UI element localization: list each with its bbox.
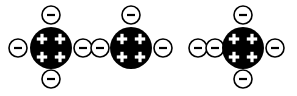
atom-3-electron-left-inner[interactable] bbox=[206, 39, 224, 57]
minus-sign-icon bbox=[271, 47, 279, 49]
plus-bar-vertical bbox=[250, 34, 253, 44]
minus-sign-icon bbox=[47, 78, 55, 80]
plus-bar-vertical bbox=[58, 52, 61, 62]
plus-bar-vertical bbox=[232, 52, 235, 62]
minus-sign-icon bbox=[239, 14, 247, 16]
charge-diagram-svg bbox=[0, 0, 297, 96]
atom-1-electron-right[interactable] bbox=[74, 39, 92, 57]
charge-diagram-canvas bbox=[0, 0, 297, 96]
atom-2-nucleus[interactable] bbox=[110, 27, 152, 69]
atom-3-nucleus[interactable] bbox=[222, 27, 264, 69]
plus-bar-vertical bbox=[40, 52, 43, 62]
plus-bar-vertical bbox=[232, 34, 235, 44]
plus-bar-vertical bbox=[138, 52, 141, 62]
plus-bar-vertical bbox=[58, 34, 61, 44]
minus-sign-icon bbox=[14, 47, 22, 49]
atom-3-electron-right[interactable] bbox=[266, 39, 284, 57]
plus-bar-vertical bbox=[250, 52, 253, 62]
minus-sign-icon bbox=[47, 14, 55, 16]
plus-bar-vertical bbox=[120, 34, 123, 44]
nucleus-circle bbox=[30, 27, 72, 69]
atom-3-electron-top[interactable] bbox=[234, 6, 252, 24]
plus-bar-vertical bbox=[40, 34, 43, 44]
minus-sign-icon bbox=[194, 47, 202, 49]
atom-3-electron-left-outer[interactable] bbox=[189, 39, 207, 57]
plus-bar-vertical bbox=[138, 34, 141, 44]
minus-sign-icon bbox=[127, 14, 135, 16]
atom-1-nucleus[interactable] bbox=[30, 27, 72, 69]
atom-2-electron-top[interactable] bbox=[122, 6, 140, 24]
atom-1-electron-top[interactable] bbox=[42, 6, 60, 24]
minus-sign-icon bbox=[211, 47, 219, 49]
minus-sign-icon bbox=[239, 78, 247, 80]
atom-1-electron-bottom[interactable] bbox=[42, 70, 60, 88]
minus-sign-icon bbox=[96, 47, 104, 49]
nucleus-circle bbox=[110, 27, 152, 69]
minus-sign-icon bbox=[159, 47, 167, 49]
atom-1-electron-left[interactable] bbox=[9, 39, 27, 57]
plus-bar-vertical bbox=[120, 52, 123, 62]
atom-3-electron-bottom[interactable] bbox=[234, 70, 252, 88]
atom-2-electron-right[interactable] bbox=[154, 39, 172, 57]
nucleus-circle bbox=[222, 27, 264, 69]
atom-2-electron-left[interactable] bbox=[91, 39, 109, 57]
minus-sign-icon bbox=[79, 47, 87, 49]
